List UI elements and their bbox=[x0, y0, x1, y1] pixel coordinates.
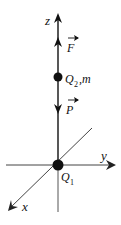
svg-text:Q: Q bbox=[61, 170, 70, 184]
z-axis-label: z bbox=[44, 13, 50, 28]
svg-text:P: P bbox=[65, 103, 74, 117]
svg-text:F: F bbox=[66, 41, 75, 55]
charge-q1-dot bbox=[53, 160, 64, 171]
svg-text:1: 1 bbox=[70, 178, 74, 187]
diagram-canvas: z F Q 2 ,m P y Q 1 x bbox=[0, 0, 121, 225]
svg-text:,m: ,m bbox=[79, 72, 91, 86]
charge-q1-label: Q 1 bbox=[61, 170, 74, 187]
svg-text:2: 2 bbox=[74, 80, 78, 89]
svg-text:Q: Q bbox=[65, 72, 74, 86]
force-p-label: P bbox=[65, 97, 79, 117]
force-f-label: F bbox=[66, 35, 79, 55]
x-axis bbox=[8, 128, 92, 211]
coordinate-diagram: z F Q 2 ,m P y Q 1 x bbox=[0, 0, 121, 225]
z-axis bbox=[54, 13, 62, 165]
x-axis-label: x bbox=[21, 199, 28, 214]
charge-q2-dot bbox=[54, 73, 63, 82]
y-axis-label: y bbox=[99, 148, 107, 163]
charge-q2-label: Q 2 ,m bbox=[65, 72, 91, 89]
